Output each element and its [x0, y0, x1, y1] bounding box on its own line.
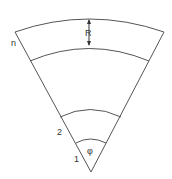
label-ring-1: 1 — [74, 154, 79, 164]
label-ring-2: 2 — [57, 127, 62, 137]
sector-diagram: n R 2 1 φ — [0, 0, 172, 179]
ring-1-arc — [76, 139, 106, 143]
label-angle-phi: φ — [87, 146, 93, 156]
label-ring-n: n — [11, 38, 16, 48]
label-radial-width: R — [85, 28, 92, 38]
ring-2-arc — [60, 110, 121, 118]
right-radial-edge — [91, 32, 164, 172]
ring-n-inner-arc — [30, 49, 149, 62]
